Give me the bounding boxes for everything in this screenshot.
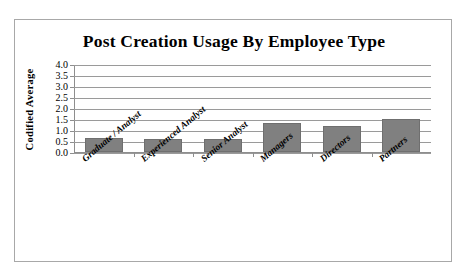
y-tick-label: 3.0 [56, 82, 69, 92]
y-tick-label: 2.0 [56, 104, 69, 114]
y-tick-label: 0.5 [56, 137, 69, 147]
y-tick-label: 1.0 [56, 126, 69, 136]
y-tick-label: 3.5 [56, 71, 69, 81]
gridline [74, 109, 431, 110]
chart-title: Post Creation Usage By Employee Type [15, 31, 453, 52]
y-axis-title-label: Codified Average [25, 68, 36, 150]
y-axis-title: Codified Average [23, 65, 37, 153]
gridline [74, 142, 431, 143]
y-tick-mark [70, 87, 74, 88]
gridline [74, 131, 431, 132]
y-tick-mark [70, 109, 74, 110]
x-axis-category-labels: Graduate / AnalystExperienced AnalystSen… [74, 156, 431, 256]
y-tick-label: 1.5 [56, 115, 69, 125]
y-tick-mark [70, 142, 74, 143]
plot-area: 4.03.53.02.52.01.51.00.50.0 [74, 65, 431, 153]
y-tick-mark [70, 65, 74, 66]
y-tick-label: 2.5 [56, 93, 69, 103]
y-tick-mark [70, 153, 74, 154]
y-tick-mark [70, 120, 74, 121]
chart-frame: Post Creation Usage By Employee Type Cod… [14, 19, 452, 262]
gridline [74, 65, 431, 66]
gridline [74, 76, 431, 77]
y-tick-mark [70, 131, 74, 132]
y-tick-label: 0.0 [56, 148, 69, 158]
y-tick-mark [70, 98, 74, 99]
gridline [74, 98, 431, 99]
y-tick-label: 4.0 [56, 60, 69, 70]
y-tick-mark [70, 76, 74, 77]
gridline [74, 87, 431, 88]
